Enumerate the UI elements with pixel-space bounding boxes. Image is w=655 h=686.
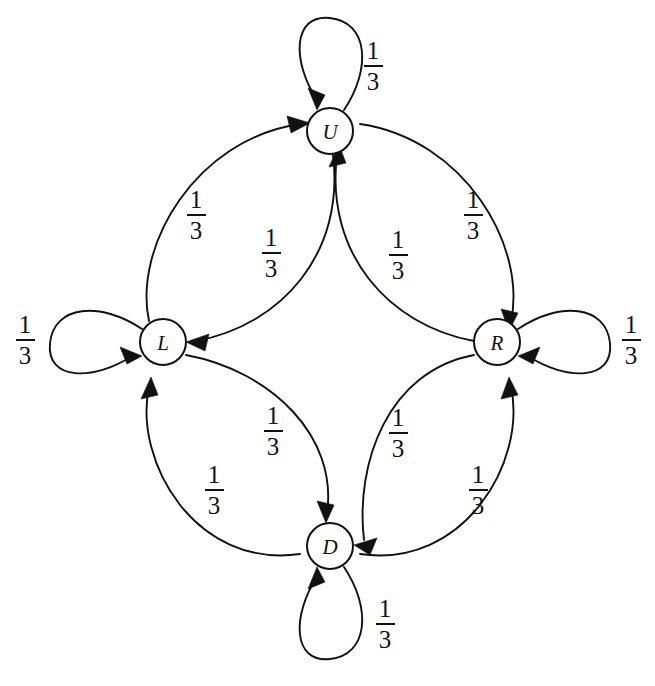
edge-L-to-U-path	[147, 124, 300, 321]
edge-L-to-U	[147, 116, 310, 321]
label-self-loop-R-numerator: 1	[616, 312, 646, 338]
fraction-bar	[469, 489, 488, 491]
fraction-bar	[205, 489, 224, 491]
label-edge-L-to-D: 1 3	[258, 403, 288, 459]
label-self-loop-R-denominator: 3	[616, 343, 646, 368]
label-edge-R-to-U-numerator: 1	[383, 227, 413, 253]
node-D[interactable]: D	[307, 523, 353, 569]
label-edge-U-to-L-numerator: 1	[256, 225, 286, 251]
label-self-loop-R: 1 3	[616, 312, 646, 368]
edge-L-to-D-arrowhead	[317, 501, 334, 523]
fraction-bar	[622, 339, 641, 341]
self-loop-D	[300, 567, 363, 659]
node-D-label: D	[321, 535, 337, 559]
node-R[interactable]: R	[474, 319, 520, 365]
label-edge-U-to-R-numerator: 1	[458, 187, 488, 213]
label-edge-D-to-L-denominator: 3	[199, 493, 229, 518]
label-edge-D-to-R-numerator: 1	[383, 405, 413, 431]
label-edge-D-to-R: 1 3	[383, 405, 413, 461]
label-edge-U-to-R: 1 3	[458, 187, 488, 243]
self-loop-U	[300, 18, 363, 110]
fraction-bar	[264, 430, 283, 432]
label-edge-L-to-D-denominator: 3	[258, 434, 288, 459]
label-self-loop-U-numerator: 1	[358, 38, 388, 64]
label-self-loop-U: 1 3	[358, 38, 388, 94]
fraction-bar	[464, 214, 483, 216]
fraction-bar	[389, 432, 408, 434]
edge-U-to-L-arrowhead	[186, 334, 209, 351]
fraction-bar	[16, 339, 35, 341]
state-diagram-canvas: U L R D 1 3 1 3 1 3 1 3	[0, 0, 655, 686]
self-loop-U-path	[300, 18, 363, 110]
node-U-label: U	[322, 120, 339, 144]
label-edge-L-to-D-numerator: 1	[258, 403, 288, 429]
node-U[interactable]: U	[307, 108, 353, 154]
label-self-loop-L-denominator: 3	[10, 343, 40, 368]
label-edge-U-to-L-denominator: 3	[256, 256, 286, 281]
label-self-loop-D: 1 3	[370, 596, 400, 652]
label-edge-R-to-D: 1 3	[463, 462, 493, 518]
fraction-bar	[364, 65, 383, 67]
self-loop-D-path	[300, 567, 363, 659]
label-self-loop-U-denominator: 3	[358, 69, 388, 94]
self-loop-R-path	[518, 311, 610, 374]
node-L[interactable]: L	[140, 319, 186, 365]
label-edge-R-to-D-denominator: 3	[463, 493, 493, 518]
self-loop-U-arrowhead	[308, 88, 325, 110]
fraction-bar	[187, 214, 206, 216]
label-edge-D-to-L-numerator: 1	[199, 462, 229, 488]
label-self-loop-L-numerator: 1	[10, 312, 40, 338]
label-edge-L-to-U: 1 3	[181, 187, 211, 243]
self-loop-R	[518, 311, 610, 374]
edge-R-to-D-path	[363, 355, 474, 540]
fraction-bar	[376, 623, 395, 625]
edge-D-to-L-arrowhead	[141, 377, 158, 399]
label-self-loop-L: 1 3	[10, 312, 40, 368]
edge-D-to-R-arrowhead	[501, 377, 518, 399]
node-R-label: R	[490, 331, 504, 355]
label-edge-D-to-L: 1 3	[199, 462, 229, 518]
edge-D-to-R	[360, 377, 518, 555]
label-edge-L-to-U-numerator: 1	[181, 187, 211, 213]
label-edge-U-to-R-denominator: 3	[458, 218, 488, 243]
label-edge-L-to-U-denominator: 3	[181, 218, 211, 243]
label-edge-R-to-U: 1 3	[383, 227, 413, 283]
edge-R-to-D	[354, 355, 474, 555]
label-edge-U-to-L: 1 3	[256, 225, 286, 281]
label-edge-R-to-D-numerator: 1	[463, 462, 493, 488]
label-edge-R-to-U-denominator: 3	[383, 258, 413, 283]
node-L-label: L	[156, 331, 169, 355]
label-self-loop-D-numerator: 1	[370, 596, 400, 622]
edge-U-to-R-path	[360, 124, 513, 321]
label-edge-D-to-R-denominator: 3	[383, 436, 413, 461]
fraction-bar	[262, 252, 281, 254]
self-loop-D-arrowhead	[308, 567, 325, 589]
self-loop-L	[50, 311, 142, 374]
edge-R-to-D-arrowhead	[354, 538, 377, 555]
transition-graph: U L R D	[0, 0, 655, 686]
label-self-loop-D-denominator: 3	[370, 627, 400, 652]
self-loop-L-path	[50, 311, 142, 374]
fraction-bar	[389, 254, 408, 256]
